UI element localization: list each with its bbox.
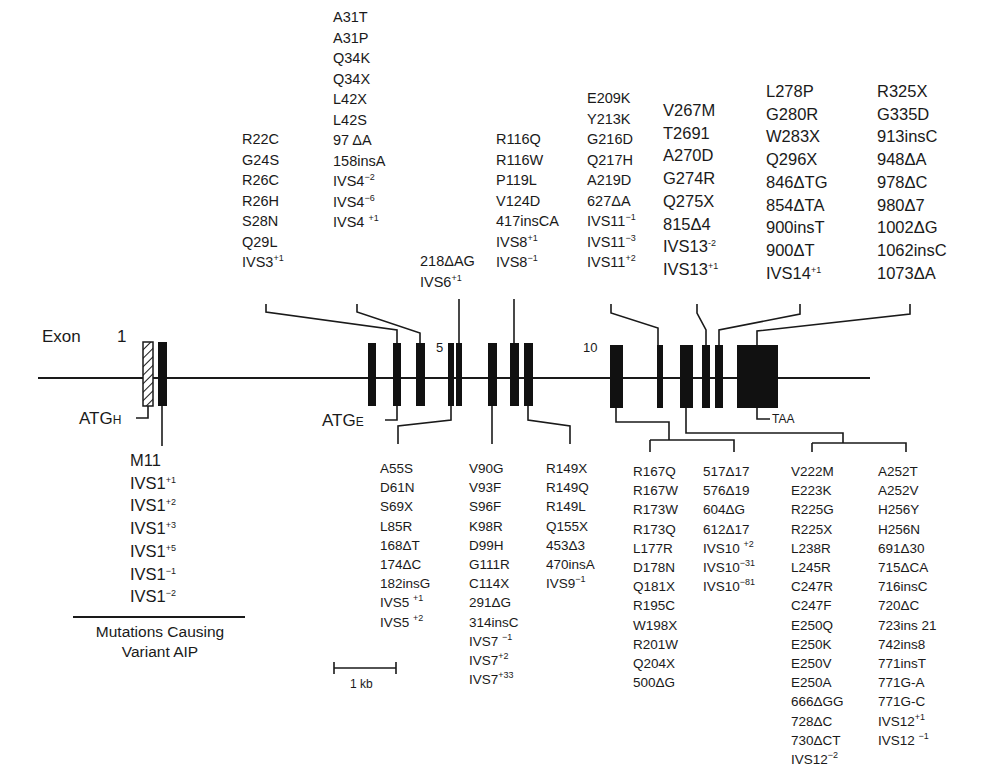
scale-bar-label: 1 kb (350, 677, 373, 691)
mutation-label: A55S (380, 459, 430, 478)
mutation-label: 728ΔC (791, 712, 844, 731)
mutation-label: IVS11+2 (587, 252, 636, 273)
mutation-label: 900ΔT (766, 239, 827, 262)
mutation-label: Y213K (587, 109, 636, 130)
mutation-label: IVS1+3 (130, 517, 176, 540)
mutation-list-exon12-b: A252TA252VH256YH256N691Δ30715ΔCA716insC7… (878, 462, 937, 750)
mutation-label: Q29L (242, 232, 284, 253)
mutation-label: 612Δ17 (703, 520, 755, 539)
mutation-label: V124D (496, 191, 559, 212)
mutation-label: S28N (242, 211, 284, 232)
mutation-label: 604ΔG (703, 500, 755, 519)
mutation-label: R22C (242, 129, 284, 150)
variant-aip-caption: Mutations Causing Variant AIP (74, 622, 246, 662)
mutation-label: R116W (496, 150, 559, 171)
mutation-list-exon7: V90GV93FS96FK98RD99HG111RC114X291ΔG314in… (469, 459, 519, 689)
mutation-label: IVS13+1 (663, 258, 718, 281)
mutation-label: IVS1+5 (130, 540, 176, 563)
exon-1-noncoding (143, 342, 153, 406)
exon-6 (456, 343, 462, 406)
mutation-label: G335D (877, 103, 947, 126)
mutation-label: 854ΔTA (766, 194, 827, 217)
exon-8 (510, 343, 519, 406)
exon-9 (524, 343, 533, 406)
exon-11 (657, 345, 663, 408)
mutation-list-exon13: V267MT2691A270DG274RQ275X815Δ4IVS13-2IVS… (663, 99, 718, 281)
mutation-list-exon5: A55SD61NS69XL85R168ΔT174ΔC182insGIVS5 +1… (380, 459, 430, 632)
mutation-list-exon1: M11IVS1+1IVS1+2IVS1+3IVS1+5IVS1−1IVS1−2 (130, 449, 176, 608)
mutation-label: 174ΔC (380, 555, 430, 574)
mutation-label: R195C (633, 596, 678, 615)
mutation-label: 742ins8 (878, 635, 937, 654)
mutation-label: 1073ΔA (877, 262, 947, 285)
mutation-list-exon9: R149XR149QR149LQ155X453Δ3470insAIVS9−1 (546, 459, 595, 593)
mutation-label: 182insG (380, 574, 430, 593)
mutation-label: W283X (766, 125, 827, 148)
mutation-label: L42S (333, 110, 385, 131)
mutation-label: Q155X (546, 517, 595, 536)
mutation-label: IVS8−1 (496, 252, 559, 273)
mutation-label: 978ΔC (877, 171, 947, 194)
mutation-label: IVS1−2 (130, 585, 176, 608)
mutation-label: C247F (791, 596, 844, 615)
mutation-list-exon4: A31TA31PQ34KQ34XL42XL42S97 ΔA158insAIVS4… (333, 7, 385, 233)
exon-5a (416, 343, 425, 406)
mutation-label: T2691 (663, 122, 718, 145)
mutation-label: G216D (587, 129, 636, 150)
mutation-label: V93F (469, 478, 519, 497)
mutation-label: 771insT (878, 654, 937, 673)
exon-15 (737, 345, 778, 408)
mutation-label: A252V (878, 481, 937, 500)
exon-3 (368, 343, 376, 406)
mutation-label: E250A (791, 673, 844, 692)
mutation-label: R225G (791, 500, 844, 519)
mutation-label: 417insCA (496, 211, 559, 232)
mutation-label: 720ΔC (878, 596, 937, 615)
mutation-label: IVS13-2 (663, 235, 718, 258)
mutation-label: IVS5 +1 (380, 593, 430, 612)
mutation-label: A270D (663, 144, 718, 167)
exons (143, 342, 778, 408)
mutation-label: 627ΔA (587, 191, 636, 212)
mutation-label: R167Q (633, 462, 678, 481)
exon-5 (448, 343, 454, 406)
mutation-label: V222M (791, 462, 844, 481)
mutation-label: 846ΔTG (766, 171, 827, 194)
mutation-label: R26C (242, 170, 284, 191)
mutation-list-exon10-a: R167QR167WR173WR173QL177RD178NQ181XR195C… (633, 462, 678, 692)
mutation-label: IVS12 −1 (878, 731, 937, 750)
exon-number-1: 1 (117, 327, 126, 347)
mutation-label: K98R (469, 517, 519, 536)
mutation-label: Q34K (333, 48, 385, 69)
mutation-label: Q296X (766, 148, 827, 171)
mutation-label: 715ΔCA (878, 558, 937, 577)
exon-4 (393, 343, 401, 406)
mutation-label: H256Y (878, 500, 937, 519)
mutation-label: Q34X (333, 69, 385, 90)
exon-13 (702, 345, 710, 408)
mutation-label: E250K (791, 635, 844, 654)
mutation-label: IVS8+1 (496, 232, 559, 253)
mutation-label: R149X (546, 459, 595, 478)
mutation-label: A219D (587, 170, 636, 191)
mutation-label: IVS14+1 (766, 262, 827, 285)
mutation-label: L245R (791, 558, 844, 577)
mutation-label: 158insA (333, 151, 385, 172)
mutation-label: R225X (791, 520, 844, 539)
exon-number-5: 5 (436, 340, 443, 355)
mutation-label: R149L (546, 497, 595, 516)
mutation-label: C114X (469, 574, 519, 593)
mutation-label: 771G-A (878, 673, 937, 692)
exon-14 (715, 345, 723, 408)
mutation-list-exon15: R325XG335D913insC948ΔA978ΔC980Δ71002ΔG10… (877, 80, 947, 284)
mutation-label: M11 (130, 449, 176, 472)
mutation-label: IVS10−31 (703, 558, 755, 577)
mutation-label: IVS7+33 (469, 670, 519, 689)
mutation-label: IVS3+1 (242, 252, 284, 273)
mutation-label: IVS4−6 (333, 192, 385, 213)
mutation-label: 314insC (469, 613, 519, 632)
exon-2 (158, 342, 167, 406)
mutation-label: 730ΔCT (791, 731, 844, 750)
mutation-label: R149Q (546, 478, 595, 497)
mutation-label: G24S (242, 150, 284, 171)
